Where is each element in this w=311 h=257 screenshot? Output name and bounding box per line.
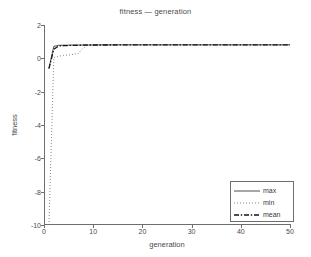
x-tick-label: 10 [89,228,97,235]
y-tick-label: -4 [35,122,41,129]
legend-label-max: max [263,187,276,194]
x-tick-label: 0 [42,228,46,235]
y-tick-label: -6 [35,155,41,162]
legend-swatch-max-icon [234,186,260,196]
figure-canvas: fitness — generation fitness generation … [0,0,311,257]
legend-item-mean[interactable]: mean [231,209,295,220]
series-line-mean [49,45,290,69]
legend-item-max[interactable]: max [231,185,295,196]
y-tick-label: 0 [37,55,41,62]
legend-label-min: min [263,199,274,206]
chart-legend[interactable]: maxminmean [230,181,294,222]
y-axis-label: fitness [10,114,19,136]
y-tick-label: -8 [35,188,41,195]
x-tick-label: 50 [286,228,294,235]
x-axis-label: generation [44,240,290,249]
chart-title: fitness — generation [0,7,311,16]
series-line-max [49,45,290,69]
y-tick-label: -2 [35,88,41,95]
y-tick-label: -10 [31,222,41,229]
legend-swatch-mean-icon [234,210,260,220]
legend-swatch-min-icon [234,198,260,208]
legend-label-mean: mean [263,211,281,218]
y-tick-label: 2 [37,22,41,29]
x-tick-label: 40 [237,228,245,235]
x-tick-label: 30 [188,228,196,235]
legend-item-min[interactable]: min [231,197,295,208]
x-tick-label: 20 [138,228,146,235]
